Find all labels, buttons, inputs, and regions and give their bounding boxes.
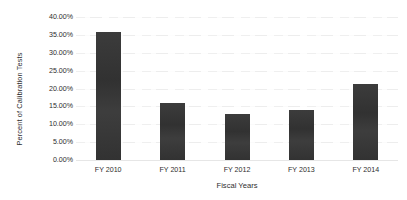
y-axis-tick-label: 30.00% [26,49,73,57]
bar [96,32,121,160]
y-axis-tick-label: 15.00% [26,102,73,110]
plot-area [76,17,398,160]
bar [160,103,185,160]
y-axis-tick-label: 5.00% [26,138,73,146]
bar [289,110,314,160]
y-axis-tick-label: 40.00% [26,13,73,21]
x-axis-line [76,160,398,161]
x-axis-tick-label: FY 2011 [141,165,205,175]
x-axis-tick-label: FY 2012 [205,165,269,175]
bar-chart-figure: Percent of Calibration Tests 40.00%35.00… [0,0,407,200]
x-axis-tick-label: FY 2014 [334,165,398,175]
x-axis-title: Fiscal Years [76,181,398,191]
y-axis-tick-label: 25.00% [26,67,73,75]
y-axis-tick-label: 35.00% [26,31,73,39]
y-axis-title: Percent of Calibration Tests [13,23,27,175]
y-axis-tick-label: 10.00% [26,120,73,128]
x-axis-tick-labels: FY 2010FY 2011FY 2012FY 2013FY 2014 [76,165,398,176]
y-axis-tick-labels: 40.00%35.00%30.00%25.00%20.00%15.00%10.0… [26,10,73,164]
bar [353,84,378,160]
x-axis-tick-label: FY 2010 [76,165,140,175]
y-axis-tick-label: 20.00% [26,85,73,93]
bar [225,114,250,160]
bars-group [76,17,398,160]
y-axis-tick-label: 0.00% [26,156,73,164]
x-axis-tick-label: FY 2013 [269,165,333,175]
